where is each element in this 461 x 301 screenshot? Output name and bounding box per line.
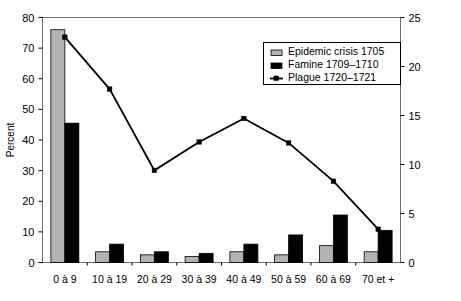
right-tick-label: 5 [409, 208, 415, 220]
plague-data-point-2 [152, 168, 156, 172]
category-label-6: 60 à 69 [316, 273, 351, 285]
left-tick-label: 0 [28, 257, 34, 269]
category-axis-labels: 0 à 910 à 1920 à 2930 à 3940 à 4950 à 59… [53, 273, 394, 285]
right-tick-label: 15 [409, 110, 421, 122]
plague-data-point-6 [331, 179, 335, 183]
bar-famine-2 [154, 252, 168, 263]
plague-data-point-1 [107, 87, 111, 91]
legend-swatch-famine-icon [271, 63, 282, 69]
left-tick-label: 80 [22, 12, 34, 24]
left-axis-title: Percent [5, 123, 16, 158]
category-label-2: 20 à 29 [137, 273, 172, 285]
category-label-0: 0 à 9 [53, 273, 77, 285]
bar-epidemic-2 [140, 255, 154, 263]
left-tick-label: 50 [22, 103, 34, 115]
plague-data-point-7 [376, 227, 380, 231]
chart-legend: Epidemic crisis 1705Famine 1709–1710Plag… [264, 43, 401, 85]
bar-epidemic-1 [96, 252, 110, 263]
left-axis: 01020304050607080 [22, 12, 42, 269]
bar-epidemic-3 [185, 256, 199, 262]
category-label-1: 10 à 19 [92, 273, 127, 285]
bar-famine-1 [110, 244, 124, 262]
left-tick-label: 60 [22, 73, 34, 85]
category-label-5: 50 à 59 [271, 273, 306, 285]
left-tick-label: 10 [22, 226, 34, 238]
percent-by-age-group-chart: 01020304050607080 0510152025 Percent 0 à… [0, 0, 461, 301]
category-label-7: 70 et + [362, 273, 394, 285]
bar-famine-3 [199, 253, 213, 262]
bar-epidemic-0 [51, 30, 65, 263]
left-tick-label: 70 [22, 42, 34, 54]
bar-famine-0 [65, 123, 79, 262]
bar-epidemic-6 [319, 246, 333, 263]
plague-data-point-0 [63, 35, 67, 39]
right-tick-label: 25 [409, 12, 421, 24]
chart-container: 01020304050607080 0510152025 Percent 0 à… [0, 0, 461, 301]
category-label-4: 40 à 49 [226, 273, 261, 285]
legend-marker-plague-icon [274, 76, 278, 80]
bar-famine-5 [289, 235, 303, 263]
plague-data-point-3 [197, 140, 201, 144]
bar-famine-6 [333, 215, 347, 262]
left-tick-label: 40 [22, 134, 34, 146]
legend-label-2: Plague 1720–1721 [288, 71, 376, 83]
bar-famine-4 [244, 244, 258, 262]
left-tick-label: 30 [22, 165, 34, 177]
right-tick-label: 10 [409, 159, 421, 171]
right-axis: 0510152025 [401, 12, 421, 269]
right-tick-label: 20 [409, 61, 421, 73]
bar-epidemic-5 [275, 255, 289, 263]
legend-label-1: Famine 1709–1710 [288, 58, 379, 70]
category-label-3: 30 à 39 [182, 273, 217, 285]
bar-famine-7 [378, 230, 392, 262]
plague-data-point-5 [286, 141, 290, 145]
legend-swatch-epidemic-icon [271, 50, 282, 56]
right-tick-label: 0 [409, 257, 415, 269]
bar-epidemic-4 [230, 252, 244, 263]
left-tick-label: 20 [22, 195, 34, 207]
legend-label-0: Epidemic crisis 1705 [288, 45, 384, 57]
bar-epidemic-7 [364, 252, 378, 263]
plague-data-point-4 [242, 116, 246, 120]
